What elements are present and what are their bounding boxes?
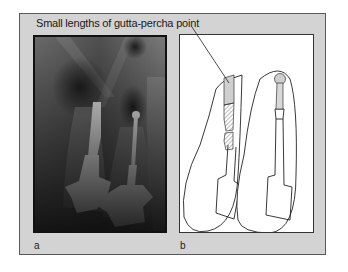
panel-label-b: b	[180, 240, 186, 251]
figure-caption: Small lengths of gutta-percha point	[36, 17, 199, 29]
tooth-diagram	[180, 35, 313, 232]
line-diagram-panel-b	[179, 34, 314, 233]
radiograph-panel-a	[33, 35, 167, 233]
radiograph-image	[35, 37, 165, 231]
panel-label-a: a	[34, 240, 40, 251]
